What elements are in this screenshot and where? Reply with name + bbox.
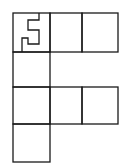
cell-r3c3 [82,87,118,124]
cell-r4c1 [13,124,50,162]
f-shape-net-diagram [0,0,126,167]
f-glyph-icon [22,13,39,52]
cell-r1c1 [13,13,50,52]
cell-r1c3 [82,13,118,52]
cell-r2c1 [13,52,50,87]
grid-cells [13,13,118,162]
cell-r3c1 [13,87,50,124]
cell-r1c2 [50,13,82,52]
cell-r3c2 [50,87,82,124]
